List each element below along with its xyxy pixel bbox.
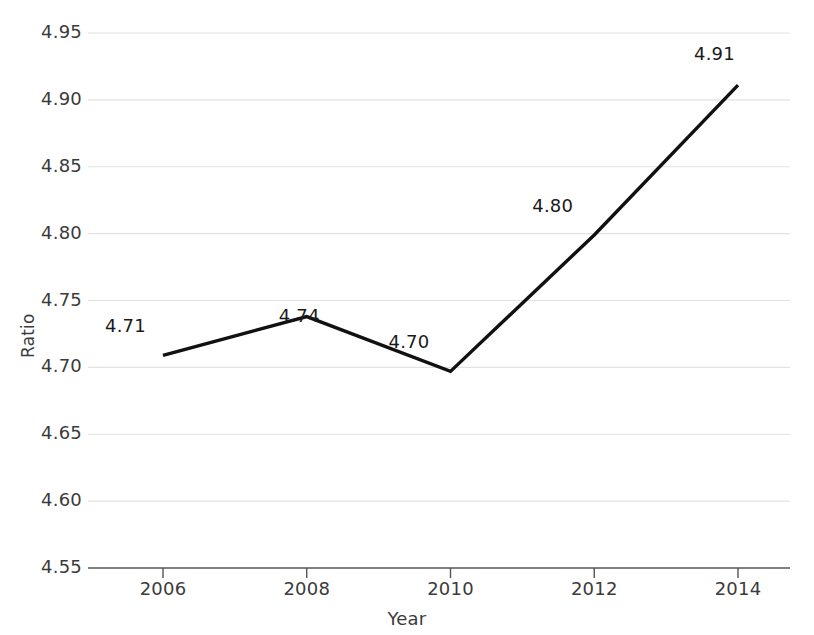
data-point-label: 4.71 — [105, 315, 146, 336]
data-point-label: 4.91 — [694, 43, 735, 64]
x-axis-tick-label: 2012 — [539, 578, 649, 599]
y-axis-tick-label: 4.65 — [10, 422, 82, 443]
y-axis-tick-label: 4.95 — [10, 21, 82, 42]
y-axis-tick-label: 4.90 — [10, 88, 82, 109]
x-axis-tick-label: 2014 — [683, 578, 793, 599]
x-axis-tick-label: 2008 — [252, 578, 362, 599]
y-axis-tick-label: 4.55 — [10, 556, 82, 577]
x-axis-ticks — [163, 568, 738, 578]
gridlines — [88, 33, 790, 501]
y-axis-tick-label: 4.85 — [10, 155, 82, 176]
line-chart: Ratio Year 4.954.904.854.804.754.704.654… — [0, 0, 814, 635]
y-axis-tick-label: 4.80 — [10, 222, 82, 243]
x-axis-tick-label: 2010 — [396, 578, 506, 599]
data-point-label: 4.80 — [532, 195, 573, 216]
y-axis-tick-label: 4.60 — [10, 489, 82, 510]
data-point-label: 4.70 — [389, 331, 430, 352]
y-axis-tick-label: 4.75 — [10, 289, 82, 310]
y-axis-tick-label: 4.70 — [10, 355, 82, 376]
x-axis-tick-label: 2006 — [108, 578, 218, 599]
data-point-label: 4.74 — [279, 305, 320, 326]
data-series-line — [163, 85, 738, 371]
